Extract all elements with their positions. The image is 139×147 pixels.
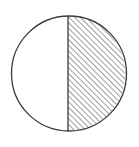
half-shaded-circle-figure: Half-shaded circle A circle divided by a… xyxy=(0,0,139,147)
figure-svg xyxy=(0,0,139,147)
